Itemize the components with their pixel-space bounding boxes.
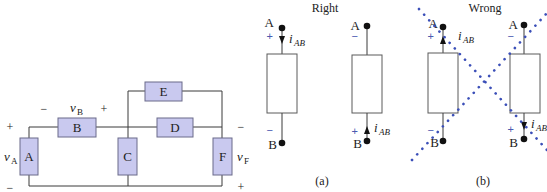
va-minus-sign: − [7,181,14,192]
component-a: A [20,138,38,175]
vf-minus-sign: − [238,120,245,134]
minus-sign: − [428,124,434,136]
node-b-dot [521,136,528,143]
panel-b-element-2: A B − + i AB [508,17,547,150]
component-b: B [58,118,96,137]
minus-sign: − [267,124,273,136]
plus-sign: + [267,30,273,42]
wire-c-e [128,91,145,138]
panel-b-title: Wrong [469,1,502,15]
component-a-label: A [24,149,34,164]
node-b-dot [364,138,371,145]
current-subscript: AB [535,123,547,133]
vb-label: v [70,100,76,115]
vf-plus-sign: + [238,180,245,192]
node-a-dot [279,25,286,32]
vf-subscript: F [244,156,249,166]
node-b-label: B [509,135,518,150]
plus-sign: + [352,125,358,137]
node-b-dot [279,140,286,147]
component-e: E [145,82,182,101]
plus-sign: + [428,30,434,42]
minus-sign: − [352,30,358,42]
wire-a-b [29,127,58,138]
component-c: C [118,138,137,175]
component-f: F [213,138,232,175]
node-a-label: A [265,15,275,30]
current-label: i [458,28,462,43]
panel-b-wrong: Wrong A B + − i AB A B − + [412,1,547,188]
node-a-dot [440,24,447,31]
current-subscript: AB [462,35,474,45]
wire-bottom-rail [29,175,222,186]
current-label: i [289,31,293,46]
va-plus-sign: + [7,120,14,134]
panel-a-right: Right A B + − i AB A B − + [265,1,391,188]
component-b-label: B [73,120,82,135]
panel-a-title: Right [312,1,339,15]
node-a-dot [521,22,528,29]
component-d-label: D [170,120,179,135]
component-e-label: E [160,84,168,99]
current-arrow-down-icon [279,36,285,44]
node-b-label: B [268,137,277,152]
panel-b-caption: (b) [476,174,490,188]
component-f-label: F [219,149,226,164]
node-b-dot [440,138,447,145]
vb-minus-sign: − [41,102,48,116]
panel-a-element-1: A B + − i AB [265,15,306,152]
current-arrow-up-icon [364,126,370,134]
plus-sign: + [508,123,514,135]
panel-a-caption: (a) [315,174,328,188]
current-label: i [374,120,378,135]
node-b-label: B [353,136,362,151]
vb-subscript: B [77,107,83,117]
circuit-diagram: A B C D E F + v A − − [4,82,249,192]
minus-sign: − [508,30,514,42]
component-d: D [157,118,193,137]
figure: A B C D E F + v A − − [0,0,547,192]
vb-plus-sign: + [101,102,108,116]
current-subscript: AB [378,127,390,137]
component-c-label: C [123,149,132,164]
node-a-dot [364,23,371,30]
current-subscript: AB [293,38,305,48]
panel-a-element-2: A B − + i AB [351,18,391,151]
vf-label: v [237,149,243,164]
node-a-label: A [429,16,439,31]
va-label: v [4,149,10,164]
va-subscript: A [11,156,18,166]
panel-b-element-1: A B + − i AB [428,16,475,150]
current-label: i [531,116,535,131]
